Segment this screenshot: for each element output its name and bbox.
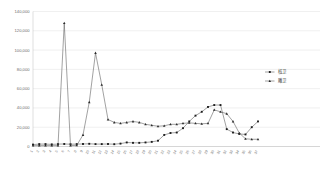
x-axis-tick-label: 23: [166, 150, 171, 155]
x-axis-tick-label: 22: [160, 150, 165, 155]
y-axis-tick-label: 120,000: [15, 28, 31, 33]
data-point-marker-square: [226, 128, 228, 130]
legend-item-2[interactable]: 雕卫: [265, 77, 287, 84]
chart-legend: 核卫雕卫: [265, 68, 287, 84]
data-point-marker-square: [213, 104, 215, 106]
x-axis-tick-label: 1: [29, 150, 33, 154]
chart-canvas: 020,00040,00060,00080,000100,000120,0001…: [0, 0, 323, 180]
legend-label: 核卫: [278, 68, 287, 75]
data-point-marker-square: [107, 143, 109, 145]
data-point-marker-square: [176, 132, 178, 134]
x-axis-tick-label: 24: [172, 150, 177, 155]
data-point-marker-triangle: [82, 134, 85, 136]
x-axis-tick-label: 26: [185, 150, 190, 155]
data-point-marker-square: [82, 143, 84, 145]
data-point-marker-square: [220, 104, 222, 106]
data-point-marker-square: [113, 143, 115, 145]
x-axis-tick-label: 16: [122, 150, 127, 155]
x-axis-tick-label: 20: [147, 150, 152, 155]
data-point-marker-square: [201, 111, 203, 113]
x-axis-tick-label: 13: [104, 150, 109, 155]
x-axis-tick-label: 31: [216, 150, 221, 155]
data-point-marker-square: [245, 134, 247, 136]
y-axis-tick-label: 100,000: [15, 48, 31, 53]
x-axis-tick-label: 17: [129, 150, 134, 155]
data-point-marker-square: [151, 141, 153, 143]
data-point-marker-triangle: [63, 22, 66, 24]
data-point-marker-square: [207, 106, 209, 108]
series-2: [32, 22, 260, 147]
x-axis-tick-label: 29: [204, 150, 209, 155]
y-axis-tick-label: 80,000: [17, 67, 30, 72]
x-axis-tick-label: 10: [85, 150, 90, 155]
x-axis-tick-label: 33: [229, 150, 234, 155]
x-axis-tick-label: 19: [141, 150, 146, 155]
data-point-marker-triangle: [94, 52, 97, 54]
line-chart-figure: 020,00040,00060,00080,000100,000120,0001…: [0, 0, 323, 180]
x-axis-tick-label: 11: [91, 150, 96, 155]
y-axis-tick-label: 140,000: [15, 9, 31, 14]
y-axis-tick-label: 60,000: [17, 86, 30, 91]
data-point-marker-triangle: [107, 118, 110, 120]
data-point-marker-square: [138, 142, 140, 144]
y-axis-tick-label: 40,000: [17, 105, 30, 110]
x-axis-tick-label: 30: [210, 150, 215, 155]
data-point-marker-square: [101, 143, 103, 145]
data-point-marker-square: [195, 115, 197, 117]
x-axis-tick-label: 3: [42, 150, 46, 154]
data-point-marker-square: [269, 71, 271, 73]
data-point-marker-triangle: [213, 108, 216, 110]
data-point-marker-square: [145, 142, 147, 144]
data-point-marker-square: [63, 143, 65, 145]
data-point-marker-square: [251, 126, 253, 128]
data-point-marker-square: [132, 142, 134, 144]
data-point-marker-square: [126, 142, 128, 144]
data-point-marker-triangle: [88, 101, 91, 103]
x-axis-tick-label: 7: [67, 150, 71, 154]
x-axis-tick-label: 6: [61, 150, 65, 154]
x-axis-tick-label: 37: [254, 150, 259, 155]
data-point-marker-square: [88, 143, 90, 145]
x-axis-tick-label: 36: [247, 150, 252, 155]
y-axis-tick-label: 0: [27, 144, 30, 149]
data-point-marker-square: [170, 132, 172, 134]
data-point-marker-square: [120, 143, 122, 145]
data-point-marker-square: [163, 134, 165, 136]
x-axis-tick-label: 32: [222, 150, 227, 155]
x-axis-tick-label: 27: [191, 150, 196, 155]
x-axis-tick-label: 28: [197, 150, 202, 155]
x-axis-tick-label: 12: [97, 150, 102, 155]
x-axis-tick-labels: 1234567891011121314151617181920212223242…: [29, 150, 258, 155]
x-axis-tick-label: 9: [79, 150, 83, 154]
x-axis-tick-label: 15: [116, 150, 121, 155]
data-point-marker-square: [232, 132, 234, 134]
data-point-marker-triangle: [238, 132, 241, 134]
data-point-marker-triangle: [132, 120, 135, 122]
x-axis-tick-label: 14: [110, 150, 115, 155]
legend-label: 雕卫: [278, 77, 287, 84]
x-axis-tick-label: 21: [154, 150, 159, 155]
x-axis-tick-label: 34: [235, 150, 240, 155]
data-point-marker-square: [157, 140, 159, 142]
x-axis-tick-label: 25: [179, 150, 184, 155]
y-axis-tick-labels: 020,00040,00060,00080,000100,000120,0001…: [15, 9, 31, 149]
x-axis-tick-label: 8: [73, 150, 77, 154]
data-series-group: [32, 22, 260, 147]
data-point-marker-square: [257, 120, 259, 122]
data-point-marker-square: [182, 127, 184, 129]
x-axis-tick-label: 35: [241, 150, 246, 155]
x-axis-tick-label: 4: [48, 150, 52, 154]
x-axis-tick-label: 18: [135, 150, 140, 155]
data-point-marker-triangle: [100, 83, 103, 85]
x-axis-tick-label: 5: [54, 150, 58, 154]
x-axis-tick-label: 2: [36, 150, 40, 154]
y-axis-tick-label: 20,000: [17, 125, 30, 130]
data-point-marker-square: [95, 143, 97, 145]
